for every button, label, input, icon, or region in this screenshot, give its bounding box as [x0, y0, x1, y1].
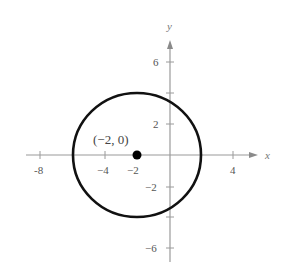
- y-tick-label: 6: [153, 56, 159, 68]
- y-tick-label: 2: [153, 118, 159, 130]
- x-tick-label: −2: [127, 164, 139, 176]
- center-point-label: (−2, 0): [93, 132, 129, 147]
- coordinate-plane: x y -8 −4 −2 4 6 2 −2 −6 (−2, 0): [0, 0, 283, 263]
- x-tick-label: −4: [97, 164, 109, 176]
- y-tick-label: −2: [145, 181, 157, 193]
- x-tick-label: 4: [230, 164, 236, 176]
- center-point: [133, 151, 142, 160]
- y-tick-label: −6: [145, 242, 157, 254]
- x-axis-arrow-icon: [249, 152, 258, 158]
- y-axis-label: y: [166, 20, 172, 32]
- x-tick-label: -8: [34, 164, 44, 176]
- y-axis-arrow-icon: [167, 40, 173, 49]
- x-axis-label: x: [264, 149, 270, 161]
